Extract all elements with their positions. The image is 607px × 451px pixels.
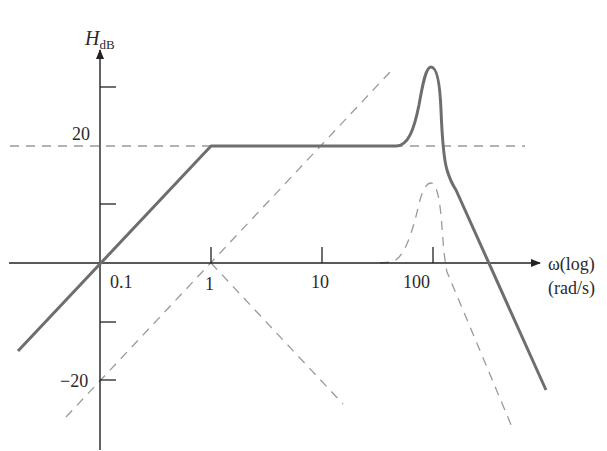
bode-plot: HdB 20 −20 0.1 1 10 100 ω(log) (rad/s) [0,0,607,451]
x-tick-label-1: 1 [205,274,214,294]
composite-magnitude-solid-curve [18,67,546,390]
x-axis-label-line1: ω(log) [548,254,595,275]
zero-asymptote-dashed-line [66,72,390,417]
x-tick-label-0.1: 0.1 [110,272,133,292]
x-tick-label-100: 100 [403,272,430,292]
x-tick-label-10: 10 [311,272,329,292]
y-tick-label-20: 20 [72,124,90,144]
y-tick-label-minus20: −20 [60,371,88,391]
resonant-term-dashed-curve [380,183,512,427]
y-axis-label: HdB [84,27,115,52]
x-axis-label-line2: (rad/s) [548,278,595,299]
